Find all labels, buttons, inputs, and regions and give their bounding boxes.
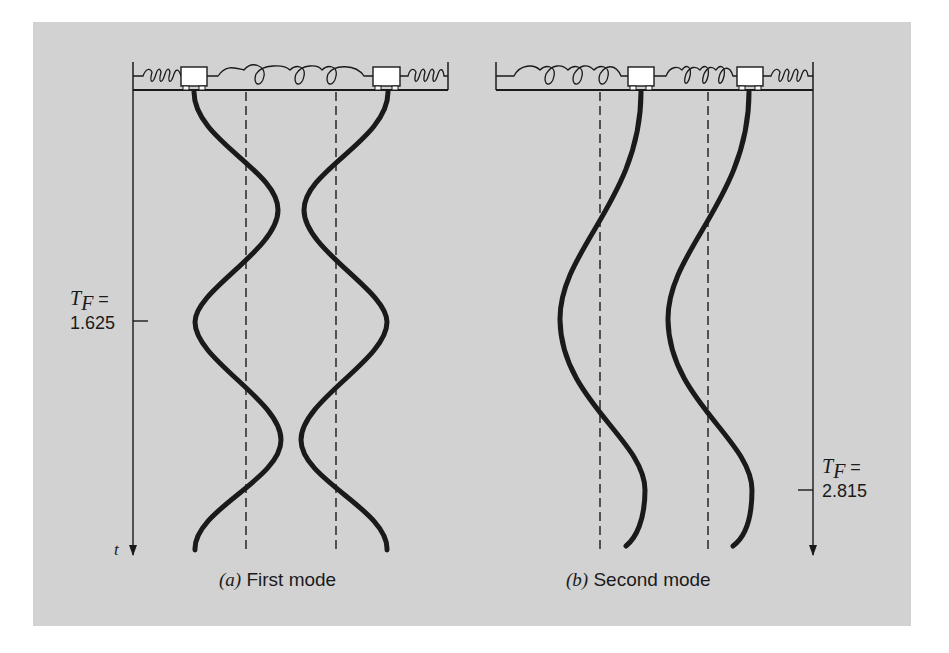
caption-text: First mode [241, 569, 336, 590]
caption-b: (b) Second mode [566, 569, 711, 591]
caption-a: (a) First mode [219, 569, 336, 591]
mass-left [181, 67, 207, 90]
mass-spring-diagram [0, 0, 949, 653]
period-equals: = [845, 457, 861, 477]
caption-letter: (a) [219, 569, 241, 590]
period-subscript: F [833, 460, 845, 482]
mass-right [737, 67, 763, 90]
period-value-b: 2.815 [822, 481, 867, 501]
period-label-a: TF = 1.625 [70, 288, 115, 333]
spring-outer-right [400, 69, 448, 81]
trajectory-mass-left [560, 92, 645, 546]
caption-letter: (b) [566, 569, 588, 590]
period-symbol: T [70, 287, 81, 309]
spring-outer-right [763, 69, 813, 81]
period-symbol: T [822, 455, 833, 477]
caption-text: Second mode [588, 569, 711, 590]
spring-middle [654, 67, 737, 84]
period-subscript: F [81, 292, 93, 314]
panel-a-first-mode [133, 62, 448, 555]
trajectory-mass-right [301, 92, 388, 550]
mass-left [628, 67, 654, 90]
period-label-b: TF = 2.815 [822, 456, 867, 501]
spring-outer-left [496, 66, 628, 84]
spring-middle [207, 65, 373, 84]
period-value-a: 1.625 [70, 313, 115, 333]
trajectory-mass-right [668, 92, 752, 546]
trajectory-mass-left [194, 92, 281, 550]
time-axis-label: t [114, 540, 119, 560]
mass-right [373, 67, 400, 90]
period-equals: = [93, 289, 109, 309]
panel-b-second-mode [496, 62, 813, 555]
spring-outer-left [133, 69, 181, 81]
